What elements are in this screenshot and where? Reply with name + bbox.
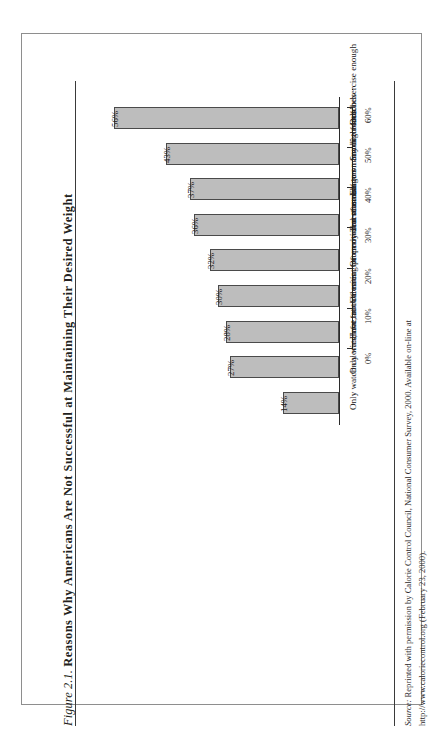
source-divider-rule bbox=[394, 81, 395, 726]
bar-chart-plot: 0%10%20%30%40%50%60% 56%43%37%36%32%30%2… bbox=[80, 89, 390, 719]
figure-number: Figure 2.1. bbox=[61, 670, 75, 726]
axis-tick-label: 50% bbox=[363, 147, 373, 163]
bar-value-label: 14% bbox=[279, 396, 289, 412]
bar bbox=[283, 392, 339, 414]
bar-value-label: 36% bbox=[190, 218, 200, 234]
bar bbox=[230, 356, 339, 378]
bar bbox=[190, 178, 339, 200]
category-label: Only watch calories, not fat bbox=[348, 309, 358, 410]
bar-value-label: 27% bbox=[226, 360, 236, 376]
axis-tick-label: 40% bbox=[363, 187, 373, 203]
bar bbox=[114, 107, 339, 129]
bar bbox=[194, 214, 339, 236]
axis-tick-label: 30% bbox=[363, 228, 373, 244]
bar bbox=[218, 285, 339, 307]
category-axis-line bbox=[339, 97, 340, 425]
figure-source-note: Source: Reprinted with permission by Cal… bbox=[402, 80, 442, 726]
bar-value-label: 28% bbox=[222, 324, 232, 340]
figure-frame: Figure 2.1. Reasons Why Americans Are No… bbox=[21, 33, 422, 705]
source-line-1: Source: Reprinted with permission by Cal… bbox=[402, 80, 416, 726]
bar-value-label: 56% bbox=[110, 111, 120, 127]
axis-tick-label: 0% bbox=[363, 353, 373, 364]
bar-value-label: 32% bbox=[206, 253, 216, 269]
bar-value-label: 43% bbox=[162, 146, 172, 162]
source-text-1: Reprinted with permission by Calorie Con… bbox=[403, 320, 413, 697]
figure-title-text: Reasons Why Americans Are Not Successful… bbox=[61, 193, 75, 666]
bar-value-label: 37% bbox=[186, 182, 196, 198]
bar-value-label: 30% bbox=[214, 289, 224, 305]
axis-tick-label: 10% bbox=[363, 308, 373, 324]
source-label: Source: bbox=[403, 700, 413, 726]
bar bbox=[226, 321, 339, 343]
bar bbox=[166, 143, 339, 165]
axis-tick-label: 60% bbox=[363, 107, 373, 123]
axis-tick-label: 20% bbox=[363, 268, 373, 284]
source-line-2: http://www.caloriecontrol.org (February … bbox=[416, 80, 430, 726]
bar bbox=[210, 249, 339, 271]
